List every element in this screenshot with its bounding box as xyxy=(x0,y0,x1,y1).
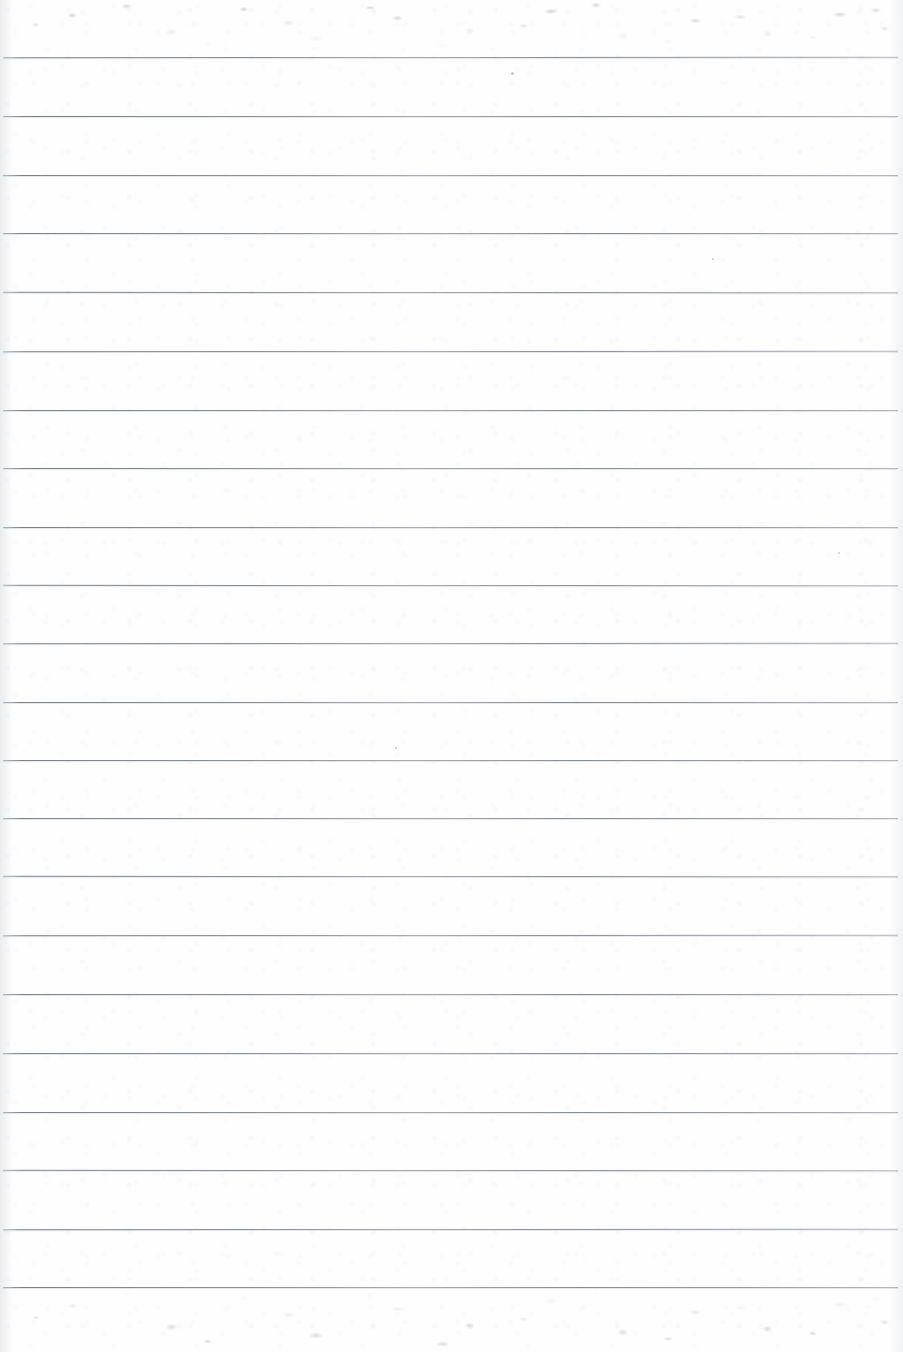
rule-line xyxy=(3,643,898,644)
rule-line xyxy=(3,233,898,234)
scanned-page xyxy=(0,0,903,1352)
rule-line xyxy=(3,1229,898,1230)
rule-line xyxy=(3,702,898,703)
scan-speck xyxy=(712,258,714,260)
rule-line xyxy=(3,935,898,936)
scan-speck xyxy=(838,552,840,554)
rule-line xyxy=(3,292,898,293)
rule-line xyxy=(3,876,898,877)
rule-line xyxy=(3,1170,898,1171)
rule-line xyxy=(3,585,898,586)
rule-line xyxy=(3,818,898,819)
rule-line xyxy=(3,760,898,761)
rule-line xyxy=(3,410,898,411)
scan-speck xyxy=(395,747,397,749)
rule-line xyxy=(3,116,898,117)
rule-line xyxy=(3,1287,898,1288)
scan-speck xyxy=(511,72,514,75)
rule-line xyxy=(3,57,898,58)
rule-line xyxy=(3,1112,898,1113)
ruled-lines-group xyxy=(0,0,903,1352)
rule-line xyxy=(3,994,898,995)
rule-line xyxy=(3,1053,898,1054)
rule-line xyxy=(3,468,898,469)
rule-line xyxy=(3,175,898,176)
rule-line xyxy=(3,351,898,352)
rule-line xyxy=(3,527,898,528)
